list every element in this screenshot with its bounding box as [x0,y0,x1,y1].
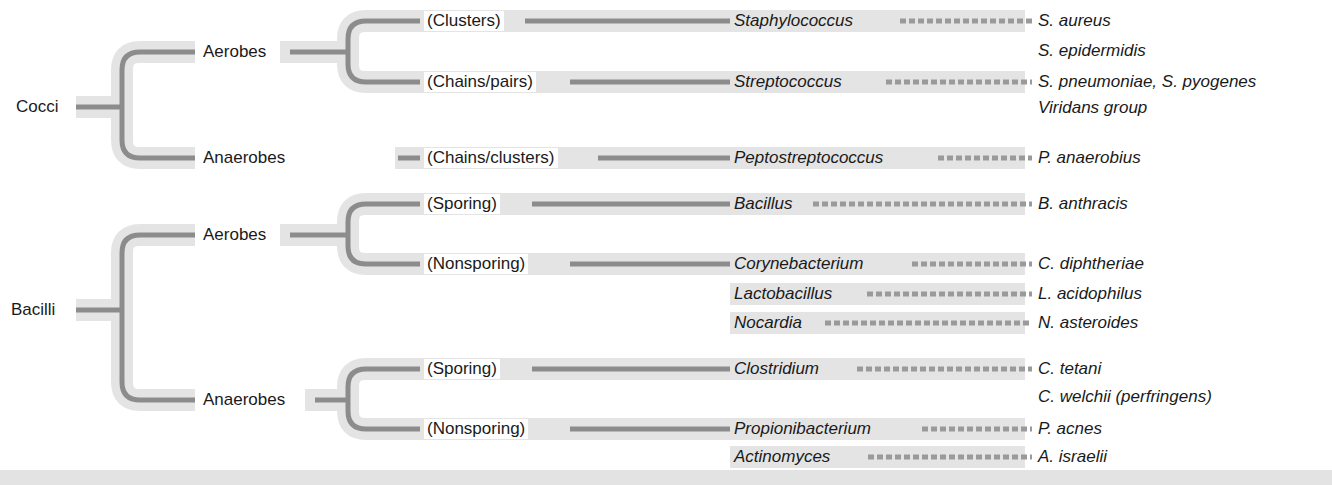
genus-actinomyces: Actinomyces [732,447,830,467]
cocci-clusters-label: (Clusters) [424,11,504,31]
species-s-pneumoniae-pyogenes: S. pneumoniae, S. pyogenes [1038,72,1256,92]
bacilli-anaerobic-nonsporing-label: (Nonsporing) [424,419,528,439]
bacilli-anaerobes-label: Anaerobes [200,390,288,410]
bacilli-anaerobic-sporing-label: (Sporing) [424,359,500,379]
genus-staphylococcus: Staphylococcus [732,11,853,31]
genus-propionibacterium: Propionibacterium [732,419,871,439]
cocci-aerobes-label: Aerobes [200,42,269,62]
species-p-anaerobius: P. anaerobius [1038,148,1141,168]
genus-streptococcus: Streptococcus [732,72,842,92]
species-c-welchii: C. welchii (perfringens) [1038,387,1212,407]
genus-corynebacterium: Corynebacterium [732,254,863,274]
species-s-aureus: S. aureus [1038,11,1111,31]
genus-nocardia: Nocardia [732,313,802,333]
genus-clostridium: Clostridium [732,359,819,379]
root-cocci-label: Cocci [13,97,62,117]
bacilli-aerobes-label: Aerobes [200,225,269,245]
bacilli-aerobic-sporing-label: (Sporing) [424,194,500,214]
species-c-diphtheriae: C. diphtheriae [1038,254,1144,274]
genus-peptostreptococcus: Peptostreptococcus [732,148,883,168]
species-n-asteroides: N. asteroides [1038,313,1138,333]
genus-bacillus: Bacillus [732,194,793,214]
species-viridans-group: Viridans group [1038,98,1147,118]
root-bacilli-label: Bacilli [8,300,58,320]
bacilli-aerobic-nonsporing-label: (Nonsporing) [424,254,528,274]
genus-lactobacillus: Lactobacillus [732,284,832,304]
cocci-chains-clusters-label: (Chains/clusters) [424,148,558,168]
species-l-acidophilus: L. acidophilus [1038,284,1142,304]
species-s-epidermidis: S. epidermidis [1038,41,1146,61]
cocci-anaerobes-label: Anaerobes [200,148,288,168]
bottom-page-band [0,470,1332,485]
cocci-chains-pairs-label: (Chains/pairs) [424,72,536,92]
species-a-israelii: A. israelii [1038,447,1107,467]
species-b-anthracis: B. anthracis [1038,194,1128,214]
species-p-acnes: P. acnes [1038,419,1102,439]
species-c-tetani: C. tetani [1038,359,1101,379]
